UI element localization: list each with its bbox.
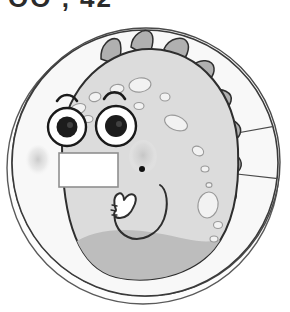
clipped-header-glyphs: OO , 42 (8, 0, 113, 13)
badge-svg (0, 13, 290, 312)
blank-name-label[interactable] (59, 153, 118, 187)
badge-illustration (0, 13, 290, 312)
eye-left (48, 108, 86, 146)
cheek-left (25, 145, 51, 177)
page-root: OO , 42 (0, 0, 290, 312)
nose-dot (139, 166, 145, 172)
clipped-header-text: OO , 42 (0, 0, 290, 13)
eye-right (96, 106, 136, 146)
